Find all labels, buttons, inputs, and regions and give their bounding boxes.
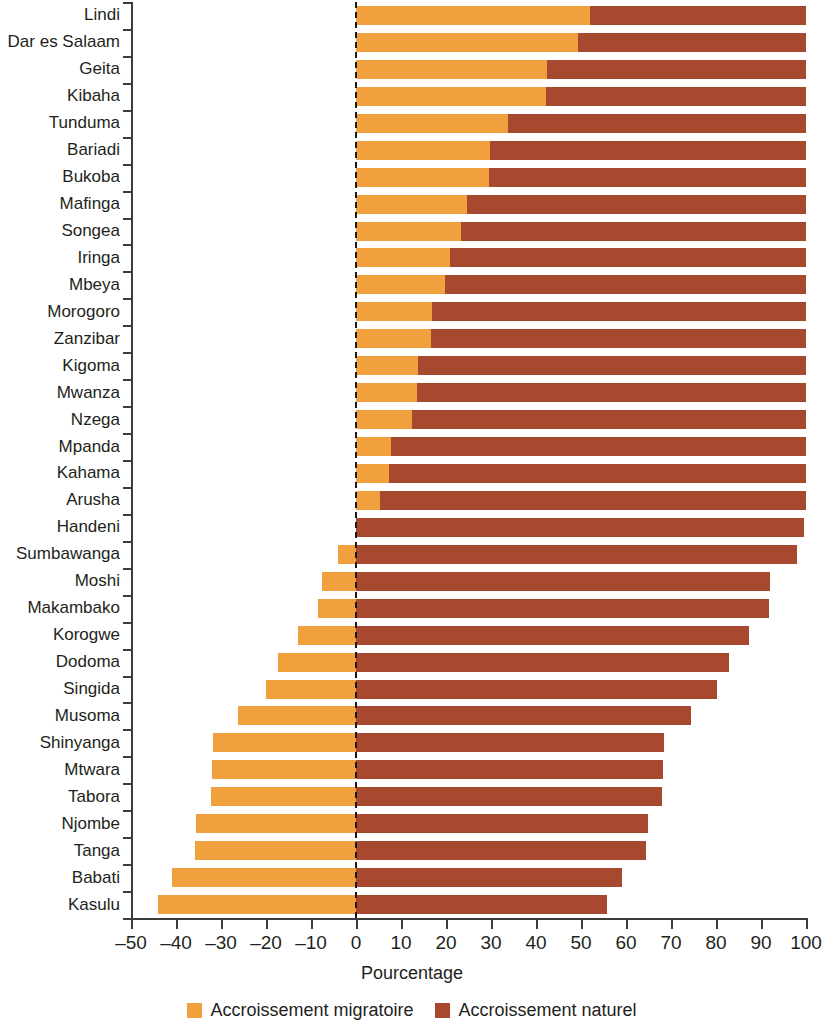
bar-segment-naturel [461,222,806,241]
bar-segment-migratoire [356,6,590,25]
y-axis-label: Bukoba [2,168,120,185]
bar-segment-migratoire [322,572,356,591]
bar-row [131,514,806,541]
x-axis-title: Pourcentage [0,963,824,984]
bar-segment-migratoire [356,491,380,510]
x-axis-tick [176,920,178,929]
bar-row [131,325,806,352]
bar-segment-naturel [412,410,806,429]
y-axis-label: Musoma [2,707,120,724]
y-axis-labels: LindiDar es SalaamGeitaKibahaTundumaBari… [0,0,120,918]
legend-item-naturel: Accroissement naturel [435,1000,636,1021]
x-axis-tick [536,920,538,929]
bar-segment-naturel [417,383,806,402]
y-axis-label: Makambako [2,599,120,616]
bar-segment-naturel [467,195,806,214]
bar-row [131,864,806,891]
bar-segment-naturel [547,60,806,79]
bar-row [131,541,806,568]
bar-segment-naturel [418,356,806,375]
y-axis-label: Iringa [2,249,120,266]
bar-segment-migratoire [278,653,356,672]
x-axis-tick [491,920,493,929]
y-axis-label: Mafinga [2,195,120,212]
bar-row [131,756,806,783]
bar-segment-migratoire [298,626,356,645]
bar-row [131,2,806,29]
bar-segment-naturel [356,733,664,752]
zero-reference-line [355,2,357,918]
bar-row [131,352,806,379]
bar-segment-naturel [356,814,648,833]
bar-segment-naturel [356,680,717,699]
bar-segment-naturel [450,248,806,267]
y-axis-label: Songea [2,222,120,239]
x-axis-tick [806,920,808,929]
y-axis-label: Sumbawanga [2,545,120,562]
x-axis-tick-label: 100 [776,932,824,954]
bar-row [131,244,806,271]
bar-segment-naturel [356,868,622,887]
bar-segment-migratoire [356,114,508,133]
bar-segment-migratoire [356,410,412,429]
y-axis-label: Njombe [2,815,120,832]
bar-row [131,137,806,164]
bar-segment-naturel [590,6,806,25]
x-axis-tick [671,920,673,929]
legend-swatch-naturel [435,1003,450,1018]
bar-segment-naturel [356,653,729,672]
bar-segment-migratoire [195,841,356,860]
bar-row [131,702,806,729]
bar-row [131,379,806,406]
bar-segment-naturel [356,626,749,645]
bar-segment-naturel [356,760,663,779]
bar-row [131,891,806,918]
y-axis-label: Kahama [2,464,120,481]
bar-row [131,271,806,298]
bar-segment-migratoire [172,868,356,887]
bar-segment-naturel [391,437,806,456]
bar-segment-migratoire [213,733,356,752]
bar-segment-naturel [546,87,806,106]
y-axis-label: Kigoma [2,357,120,374]
bar-segment-migratoire [356,222,461,241]
x-axis-tick [266,920,268,929]
bar-segment-naturel [356,787,662,806]
y-axis-label: Shinyanga [2,734,120,751]
bar-segment-naturel [432,302,806,321]
bar-segment-migratoire [356,356,418,375]
bar-row [131,218,806,245]
y-axis-label: Nzega [2,411,120,428]
bar-row [131,29,806,56]
y-axis-label: Mtwara [2,761,120,778]
bar-row [131,729,806,756]
x-axis-tick [311,920,313,929]
bar-row [131,783,806,810]
bar-row [131,568,806,595]
bar-row [131,595,806,622]
bar-segment-naturel [356,545,797,564]
bar-row [131,191,806,218]
x-axis-tick [626,920,628,929]
bar-segment-migratoire [356,195,467,214]
bar-segment-naturel [445,275,806,294]
bar-segment-migratoire [266,680,356,699]
bar-segment-naturel [490,141,806,160]
y-axis-label: Geita [2,60,120,77]
bar-row [131,433,806,460]
x-axis-tick [761,920,763,929]
y-axis-label: Zanzibar [2,330,120,347]
bar-segment-naturel [356,572,770,591]
bar-row [131,298,806,325]
bar-segment-migratoire [356,248,450,267]
y-axis-label: Korogwe [2,626,120,643]
legend-label-migratoire: Accroissement migratoire [210,1000,413,1021]
bar-row [131,56,806,83]
y-axis-label: Morogoro [2,303,120,320]
x-axis-tick [131,920,133,929]
y-axis-label: Mwanza [2,384,120,401]
chart-figure: LindiDar es SalaamGeitaKibahaTundumaBari… [0,0,824,1033]
bar-segment-naturel [356,706,691,725]
bar-segment-migratoire [356,302,432,321]
bar-segment-migratoire [356,60,547,79]
